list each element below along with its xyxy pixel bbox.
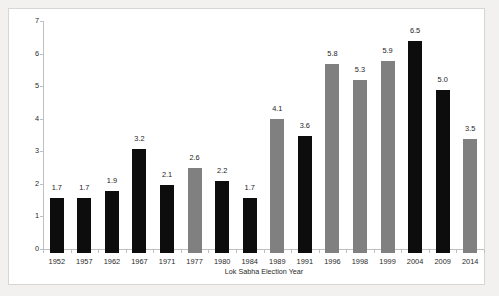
x-axis-tick-mark <box>98 250 99 253</box>
bar-value-label: 5.0 <box>426 75 460 84</box>
x-axis-tick-mark <box>264 250 265 253</box>
bar <box>270 119 284 253</box>
bar <box>215 181 229 253</box>
bar-value-label: 5.3 <box>343 65 377 74</box>
bar <box>381 61 395 253</box>
x-axis-tick-mark <box>126 250 127 253</box>
bar-value-label: 1.7 <box>233 183 267 192</box>
y-axis-tick-label: 4 <box>17 114 39 124</box>
y-axis-tick-label: 5 <box>17 81 39 91</box>
y-axis-tick-label: 7 <box>17 16 39 26</box>
x-axis-tick-mark <box>43 250 44 253</box>
x-axis-tick-mark <box>429 250 430 253</box>
x-axis-tick-mark <box>181 250 182 253</box>
y-axis-line <box>43 21 44 249</box>
y-axis-tick-mark <box>40 86 43 87</box>
bar-value-label: 5.9 <box>371 46 405 55</box>
bar <box>188 168 202 253</box>
bar-value-label: 2.6 <box>178 153 212 162</box>
y-axis-tick-mark <box>40 21 43 22</box>
bar-value-label: 5.8 <box>315 49 349 58</box>
x-axis-tick-mark <box>71 250 72 253</box>
y-axis-tick-mark <box>40 151 43 152</box>
bar <box>77 198 91 253</box>
plot-area: 01234567 1.71.71.93.22.12.62.21.74.13.65… <box>43 21 485 253</box>
chart-frame: Number of Parties (Weighted by Actual Se… <box>8 8 485 285</box>
x-axis-tick-mark <box>319 250 320 253</box>
bar-value-label: 6.5 <box>398 26 432 35</box>
bar <box>408 41 422 253</box>
x-axis-tick-label: 2014 <box>453 257 487 267</box>
x-axis-tick-mark <box>346 250 347 253</box>
bar <box>132 149 146 253</box>
bar <box>436 90 450 253</box>
y-axis-tick-label: 0 <box>17 244 39 254</box>
bar <box>160 185 174 253</box>
x-axis-tick-mark <box>153 250 154 253</box>
y-axis-tick-label: 1 <box>17 211 39 221</box>
x-axis-tick-mark <box>456 250 457 253</box>
x-axis-tick-mark <box>291 250 292 253</box>
x-axis-tick-mark <box>208 250 209 253</box>
bar <box>325 64 339 253</box>
x-axis-tick-mark <box>236 250 237 253</box>
bar <box>243 198 257 253</box>
y-axis-tick-label: 3 <box>17 146 39 156</box>
bar-value-label: 2.1 <box>150 170 184 179</box>
y-axis-tick-label: 2 <box>17 179 39 189</box>
bar <box>353 80 367 253</box>
y-axis-tick-label: 6 <box>17 49 39 59</box>
x-axis-title: Lok Sabha Election Year <box>43 267 485 276</box>
bar <box>50 198 64 253</box>
bar-value-label: 3.2 <box>122 134 156 143</box>
bar <box>463 139 477 253</box>
y-axis-tick-mark <box>40 119 43 120</box>
bar-value-label: 1.9 <box>95 176 129 185</box>
x-axis-tick-mark <box>484 250 485 253</box>
bar-value-label: 4.1 <box>260 104 294 113</box>
bar <box>105 191 119 253</box>
bar-value-label: 2.2 <box>205 166 239 175</box>
bar-value-label: 3.5 <box>453 124 487 133</box>
bar-value-label: 3.6 <box>288 121 322 130</box>
bar <box>298 136 312 253</box>
x-axis-tick-mark <box>374 250 375 253</box>
y-axis-tick-mark <box>40 54 43 55</box>
y-axis-tick-mark <box>40 216 43 217</box>
x-axis-tick-mark <box>401 250 402 253</box>
